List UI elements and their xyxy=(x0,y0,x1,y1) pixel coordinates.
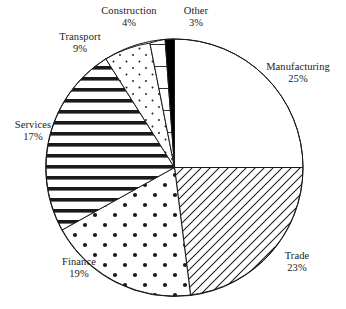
pie-label-finance: Finance 19% xyxy=(46,256,112,280)
pie-label-services: Services 17% xyxy=(2,119,64,143)
pie-label-trade-name: Trade xyxy=(272,250,322,262)
pie-label-finance-percent: 19% xyxy=(46,268,112,280)
pie-label-finance-name: Finance xyxy=(46,256,112,268)
pie-label-other: Other 3% xyxy=(172,5,220,29)
pie-label-transport-percent: 9% xyxy=(44,43,116,55)
pie-slice-manufacturing[interactable] xyxy=(175,39,304,168)
pie-chart-figure: Construction 4% Other 3% Transport 9% Se… xyxy=(0,0,346,309)
pie-label-manufacturing-name: Manufacturing xyxy=(254,61,342,73)
pie-label-construction: Construction 4% xyxy=(90,5,168,29)
pie-label-services-name: Services xyxy=(2,119,64,131)
pie-label-other-percent: 3% xyxy=(172,17,220,29)
pie-label-transport-name: Transport xyxy=(44,31,116,43)
pie-label-trade: Trade 23% xyxy=(272,250,322,274)
pie-label-other-name: Other xyxy=(172,5,220,17)
pie-label-manufacturing: Manufacturing 25% xyxy=(254,61,342,85)
pie-slice-trade[interactable] xyxy=(175,168,304,296)
pie-label-construction-name: Construction xyxy=(90,5,168,17)
pie-label-transport: Transport 9% xyxy=(44,31,116,55)
pie-label-trade-percent: 23% xyxy=(272,262,322,274)
pie-label-construction-percent: 4% xyxy=(90,17,168,29)
pie-label-manufacturing-percent: 25% xyxy=(254,73,342,85)
pie-label-services-percent: 17% xyxy=(2,131,64,143)
